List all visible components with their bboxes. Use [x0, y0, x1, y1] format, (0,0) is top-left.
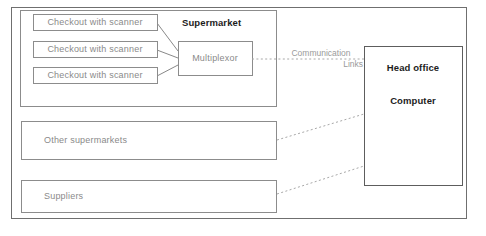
checkout-2-label: Checkout with scanner: [33, 44, 157, 55]
communication-links-label-line-1: Communication: [279, 48, 363, 58]
connector-checkout-3-multiplexor: [157, 65, 178, 76]
connector-checkout-1-multiplexor: [157, 23, 178, 51]
connector-checkout-2-multiplexor: [157, 50, 178, 58]
head-office-label-line-2: Computer: [364, 95, 462, 106]
multiplexor-label: Multiplexor: [178, 53, 252, 64]
diagram-canvas: Checkout with scanner Checkout with scan…: [0, 0, 486, 236]
other-supermarkets-label: Other supermarkets: [44, 135, 127, 146]
checkout-3-label: Checkout with scanner: [33, 70, 157, 81]
supermarket-group-label: Supermarket: [182, 17, 241, 28]
comm-link-suppliers-headoffice: [277, 166, 364, 194]
communication-links-label-line-2: Links: [279, 59, 363, 69]
checkout-1-label: Checkout with scanner: [33, 17, 157, 28]
head-office-label-line-1: Head office: [364, 62, 462, 73]
comm-link-other-supermarkets-headoffice: [277, 114, 364, 140]
suppliers-label: Suppliers: [44, 191, 83, 202]
